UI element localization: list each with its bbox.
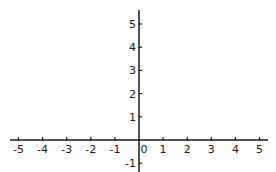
x-tick-label: -2 (85, 143, 96, 156)
x-tick-label: 4 (232, 143, 239, 156)
axes (10, 10, 268, 172)
x-tick-label: 2 (184, 143, 191, 156)
x-tick-label: 1 (160, 143, 167, 156)
x-tick-label: 0 (141, 143, 148, 156)
y-tick-label: -1 (125, 157, 136, 170)
x-tick-label: 5 (256, 143, 263, 156)
y-tick-label: 3 (129, 64, 136, 77)
x-tick-label: -1 (109, 143, 120, 156)
x-tick-label: -5 (13, 143, 24, 156)
y-tick-label: 1 (129, 111, 136, 124)
x-tick-label: -4 (37, 143, 48, 156)
y-tick-label: 5 (129, 18, 136, 31)
y-tick-label: 4 (129, 41, 136, 54)
x-tick-label: -3 (61, 143, 72, 156)
x-tick-label: 3 (208, 143, 215, 156)
coordinate-axes-chart: -5-4-3-2-1012345 12345-1 (0, 0, 276, 172)
y-tick-label: 2 (129, 88, 136, 101)
